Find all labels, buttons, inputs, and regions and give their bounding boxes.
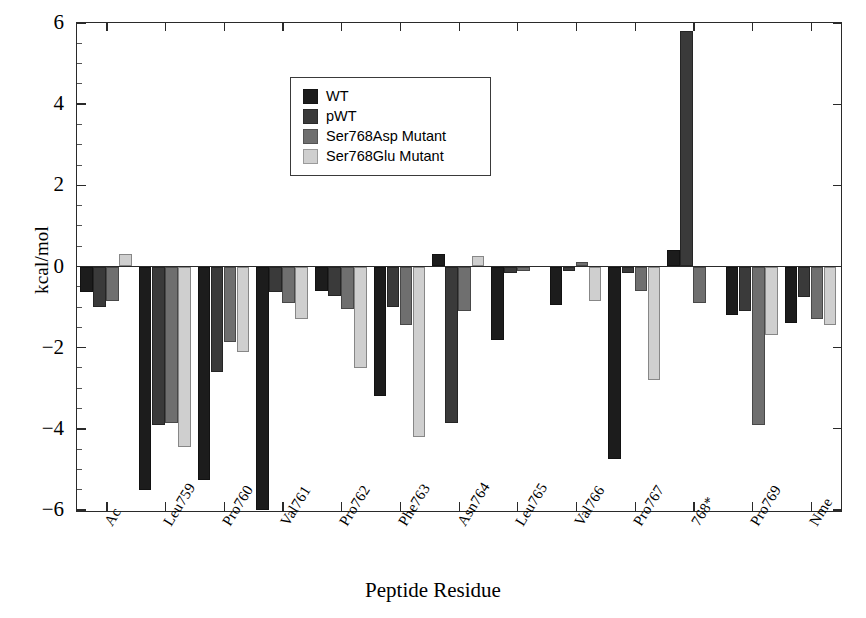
- bar: [269, 267, 282, 292]
- bar-group: [664, 23, 723, 511]
- y-tick-label: 0: [54, 253, 65, 278]
- bar-chart-figure: kcal/mol 6420−2−4−6 WT pWT Ser768Asp Mut…: [0, 0, 866, 618]
- y-tick-label: 6: [54, 10, 65, 35]
- bar: [256, 267, 269, 511]
- legend-swatch-pwt: [303, 109, 318, 124]
- legend: WT pWT Ser768Asp Mutant Ser768Glu Mutant: [290, 77, 491, 176]
- bar: [811, 267, 824, 320]
- bar: [667, 250, 680, 266]
- bar: [785, 267, 798, 324]
- bar-group: [547, 23, 606, 511]
- legend-label-wt: WT: [326, 89, 349, 104]
- bar: [576, 262, 589, 267]
- y-tick-label: −4: [42, 415, 64, 440]
- bar: [824, 267, 837, 326]
- bar: [400, 267, 413, 326]
- bar: [341, 267, 354, 310]
- bar: [693, 267, 706, 304]
- y-tick-label: −6: [42, 497, 64, 522]
- x-tick-mark-top: [106, 23, 107, 31]
- bar: [432, 254, 445, 266]
- x-tick-mark-top: [400, 23, 401, 31]
- bar: [119, 254, 132, 266]
- bar: [491, 267, 504, 340]
- legend-item-ser768glu: Ser768Glu Mutant: [303, 146, 480, 166]
- x-tick-mark-top: [752, 23, 753, 31]
- bar: [608, 267, 621, 460]
- x-tick-mark-top: [517, 23, 518, 31]
- bar: [752, 267, 765, 425]
- y-tick-label: −2: [42, 334, 64, 359]
- legend-swatch-wt: [303, 89, 318, 104]
- bar: [139, 267, 152, 490]
- bar: [798, 267, 811, 297]
- bar: [589, 267, 602, 301]
- bar: [472, 256, 485, 266]
- bar: [198, 267, 211, 480]
- bar: [563, 267, 576, 271]
- legend-swatch-ser768glu: [303, 149, 318, 164]
- bar: [517, 267, 530, 271]
- bar: [315, 267, 328, 291]
- bar: [648, 267, 661, 381]
- x-tick-mark-top: [224, 23, 225, 31]
- x-tick-mark-top: [693, 23, 694, 31]
- bar-group: [77, 23, 136, 511]
- bar: [387, 267, 400, 308]
- bar: [739, 267, 752, 312]
- bar: [282, 267, 295, 304]
- bar: [295, 267, 308, 320]
- bar: [106, 267, 119, 301]
- bar-group: [781, 23, 840, 511]
- bar: [726, 267, 739, 316]
- x-axis-title: Peptide Residue: [0, 578, 866, 603]
- x-tick-mark-top: [341, 23, 342, 31]
- x-tick-mark-top: [811, 23, 812, 31]
- bar-group: [488, 23, 547, 511]
- bar: [80, 267, 93, 292]
- bar: [178, 267, 191, 448]
- bar-group: [136, 23, 195, 511]
- legend-label-pwt: pWT: [326, 109, 357, 124]
- bar: [445, 267, 458, 423]
- x-tick-mark-top: [635, 23, 636, 31]
- bar: [237, 267, 250, 352]
- bar: [224, 267, 237, 342]
- legend-item-pwt: pWT: [303, 106, 480, 126]
- legend-swatch-ser768asp: [303, 129, 318, 144]
- y-tick-label: 4: [54, 91, 65, 116]
- x-tick-mark-top: [282, 23, 283, 31]
- bar: [211, 267, 224, 373]
- y-tick-label: 2: [54, 172, 65, 197]
- bar: [354, 267, 367, 368]
- legend-label-ser768glu: Ser768Glu Mutant: [326, 149, 444, 164]
- bar: [93, 267, 106, 308]
- bar: [635, 267, 648, 291]
- bar: [458, 267, 471, 312]
- bar-group: [605, 23, 664, 511]
- bar-group: [194, 23, 253, 511]
- bar: [504, 267, 517, 273]
- legend-item-ser768asp: Ser768Asp Mutant: [303, 126, 480, 146]
- bar: [152, 267, 165, 425]
- legend-item-wt: WT: [303, 86, 480, 106]
- bar: [622, 267, 635, 273]
- bar: [680, 31, 693, 266]
- x-axis-tick-labels: AcLeu759Pro760Val761Pro762Phe763Asn764Le…: [76, 516, 842, 586]
- bar-group: [723, 23, 782, 511]
- bar: [374, 267, 387, 397]
- plot-area: WT pWT Ser768Asp Mutant Ser768Glu Mutant: [76, 22, 842, 512]
- bar: [328, 267, 341, 296]
- bar: [550, 267, 563, 306]
- x-tick-mark-top: [576, 23, 577, 31]
- bar: [765, 267, 778, 336]
- y-axis-tick-labels: 6420−2−4−6: [0, 22, 72, 512]
- legend-label-ser768asp: Ser768Asp Mutant: [326, 129, 446, 144]
- x-tick-mark-top: [165, 23, 166, 31]
- x-tick-mark-top: [459, 23, 460, 31]
- bar: [413, 267, 426, 437]
- bar: [165, 267, 178, 423]
